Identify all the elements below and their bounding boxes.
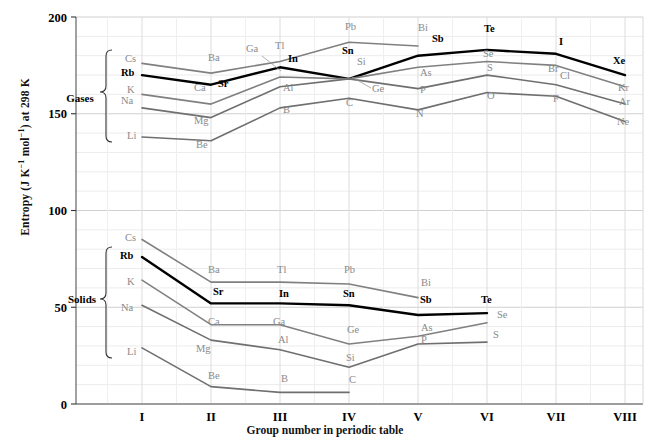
point-label-solid-In: In (279, 288, 289, 299)
point-label-solid-K: K (127, 276, 135, 287)
point-label-solid-Bi: Bi (421, 277, 431, 288)
point-label-gas-Ne: Ne (617, 116, 630, 127)
point-label-gas-Bi: Bi (418, 22, 428, 33)
x-tick-label-II: II (206, 410, 216, 424)
point-label-gas-Ge: Ge (372, 83, 385, 94)
group-label-solids: Solids (68, 293, 97, 305)
point-label-gas-Si: Si (357, 56, 366, 67)
point-label-solid-Sr: Sr (213, 286, 224, 297)
point-label-gas-Li: Li (127, 130, 136, 141)
point-label-solid-Ga: Ga (273, 316, 286, 327)
point-label-solid-P: P (421, 334, 427, 345)
y-tick-label: 150 (48, 107, 67, 121)
point-label-gas-S: S (487, 62, 493, 73)
point-label-solid-Ba: Ba (208, 264, 220, 275)
point-label-gas-Sb: Sb (432, 33, 444, 44)
point-label-gas-Ca: Ca (194, 82, 206, 93)
point-label-gas-Tl: Tl (275, 40, 284, 51)
point-label-solid-Be: Be (208, 370, 220, 381)
y-axis-title: Entropy (J K−1 mol−1) at 298 K (17, 57, 31, 257)
x-tick-label-III: III (273, 410, 288, 424)
y-tick-label: 100 (48, 204, 67, 218)
x-tick-label-VII: VII (547, 410, 566, 424)
point-label-gas-Be: Be (196, 139, 208, 150)
y-tick-label: 200 (48, 11, 67, 25)
point-label-gas-Al: Al (283, 82, 294, 93)
point-label-gas-Ga: Ga (246, 43, 259, 54)
point-label-solid-Al: Al (278, 334, 289, 345)
point-label-solid-Tl: Tl (277, 264, 286, 275)
x-tick-label-V: V (413, 410, 422, 424)
point-label-gas-Xe: Xe (613, 55, 626, 66)
point-label-solid-Pb: Pb (344, 264, 355, 275)
point-label-gas-Br: Br (548, 63, 559, 74)
chart-svg: 050100150200 IIIIIIIVVVIVIIVIII CsRbKNaL… (0, 0, 650, 443)
entropy-periodic-group-chart: 050100150200 IIIIIIIVVVIVIIVIII CsRbKNaL… (0, 0, 650, 443)
point-label-solid-Cs: Cs (125, 232, 136, 243)
point-label-gas-Pb: Pb (345, 21, 356, 32)
y-tick-label: 50 (55, 301, 68, 315)
y-tick-label: 0 (61, 398, 67, 412)
point-label-gas-Mg: Mg (194, 115, 209, 126)
leader-line-ge (352, 77, 371, 88)
point-label-gas-Sn: Sn (342, 45, 354, 56)
x-axis-title: Group number in periodic table (0, 424, 650, 436)
point-label-gas-Sr: Sr (218, 78, 229, 89)
point-label-solid-Si: Si (346, 352, 355, 363)
point-label-gas-Ar: Ar (619, 96, 631, 107)
point-label-solid-Rb: Rb (120, 250, 134, 261)
point-label-solid-Ge: Ge (347, 324, 360, 335)
point-label-solid-Na: Na (121, 302, 134, 313)
point-label-gas-P: P (420, 84, 426, 95)
point-label-solid-Sn: Sn (343, 288, 355, 299)
point-label-solid-Ca: Ca (208, 316, 220, 327)
point-label-gas-Te: Te (484, 23, 495, 34)
point-label-gas-Ba: Ba (208, 52, 220, 63)
point-label-gas-C: C (346, 97, 353, 108)
point-label-solid-As: As (421, 322, 433, 333)
point-label-gas-Se: Se (483, 48, 494, 59)
x-axis-ticks: IIIIIIIVVVIVIIVIII (140, 410, 637, 424)
point-label-solid-Mg: Mg (196, 343, 211, 354)
point-label-gas-Na: Na (121, 95, 134, 106)
point-label-gas-Kr: Kr (618, 82, 630, 93)
point-label-gas-K: K (127, 84, 135, 95)
point-label-solid-Se: Se (497, 309, 508, 320)
point-label-solid-S: S (493, 329, 499, 340)
point-label-gas-N: N (416, 108, 424, 119)
point-label-solid-B: B (281, 373, 288, 384)
point-label-gas-B: B (283, 104, 290, 115)
x-tick-label-VIII: VIII (613, 410, 637, 424)
y-axis-ticks: 050100150200 (48, 11, 76, 412)
point-label-gas-F: F (553, 93, 559, 104)
point-label-gas-As: As (420, 67, 432, 78)
point-label-solid-Li: Li (127, 346, 136, 357)
point-label-gas-I: I (559, 36, 563, 47)
point-label-solid-Sb: Sb (420, 294, 432, 305)
x-tick-label-I: I (140, 410, 145, 424)
point-label-solid-Te: Te (481, 294, 492, 305)
point-label-gas-Cs: Cs (125, 53, 136, 64)
point-label-gas-In: In (288, 53, 298, 64)
point-label-gas-O: O (487, 90, 495, 101)
point-label-gas-Cl: Cl (560, 70, 570, 81)
group-label-gases: Gases (66, 92, 94, 104)
point-label-gas-Rb: Rb (121, 67, 135, 78)
x-tick-label-VI: VI (480, 410, 494, 424)
data-point-labels: CsRbKNaLiBaSrCaMgBeTlInGaAlBPbSnSiGeCBiS… (120, 21, 631, 385)
state-group-braces: Gases Solids (66, 50, 112, 358)
point-label-solid-C: C (349, 374, 356, 385)
x-tick-label-IV: IV (342, 410, 356, 424)
